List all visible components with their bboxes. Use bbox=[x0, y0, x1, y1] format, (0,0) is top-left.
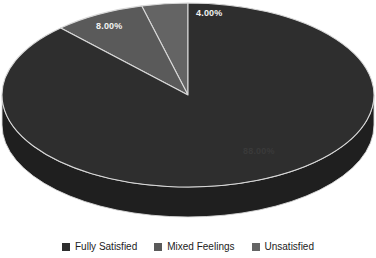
pie-chart-figure: 4.00% 8.00% 88.00% Fully Satisfied Mixed… bbox=[0, 0, 376, 258]
legend-label-fully-satisfied: Fully Satisfied bbox=[75, 241, 137, 252]
legend-item-mixed-feelings[interactable]: Mixed Feelings bbox=[154, 241, 234, 252]
pie-slice-fully-satisfied[interactable] bbox=[2, 3, 374, 187]
pie-slices bbox=[2, 3, 374, 187]
legend-swatch-unsatisfied bbox=[252, 243, 260, 251]
legend-swatch-fully-satisfied bbox=[62, 243, 70, 251]
legend-item-fully-satisfied[interactable]: Fully Satisfied bbox=[62, 241, 137, 252]
legend-swatch-mixed-feelings bbox=[154, 243, 162, 251]
pie-chart-canvas bbox=[0, 0, 376, 232]
chart-legend: Fully Satisfied Mixed Feelings Unsatisfi… bbox=[0, 241, 376, 252]
legend-label-unsatisfied: Unsatisfied bbox=[265, 241, 314, 252]
legend-item-unsatisfied[interactable]: Unsatisfied bbox=[252, 241, 314, 252]
legend-label-mixed-feelings: Mixed Feelings bbox=[167, 241, 234, 252]
